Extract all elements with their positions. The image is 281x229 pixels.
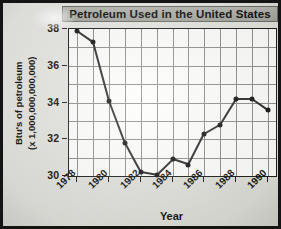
- y-axis-tick: [62, 138, 67, 139]
- y-axis-title: Btu's of petroleum (x 1,000,000,000,000): [5, 23, 39, 183]
- data-line-segment: [108, 100, 126, 143]
- x-axis-tick: [76, 177, 77, 182]
- x-axis-tick: [140, 177, 141, 182]
- data-line-segment: [188, 133, 206, 165]
- y-axis-tick-label: 38: [47, 22, 59, 34]
- y-axis-tick: [62, 28, 67, 29]
- y-axis-tick-label: 36: [47, 59, 59, 71]
- x-axis-tick: [172, 177, 173, 182]
- x-axis-tick: [203, 177, 204, 182]
- data-point-marker: [234, 96, 239, 101]
- y-axis-tick: [62, 65, 67, 66]
- y-axis-tick-label: 32: [47, 132, 59, 144]
- data-point-marker: [250, 96, 255, 101]
- y-axis-title-line-2: (x 1,000,000,000,000): [24, 23, 38, 183]
- x-axis-tick: [108, 177, 109, 182]
- y-axis-tick: [62, 102, 67, 103]
- data-line-segment: [92, 42, 110, 101]
- data-point-marker: [202, 131, 207, 136]
- x-axis-tick: [267, 177, 268, 182]
- data-series-petroleum: [69, 29, 276, 176]
- y-axis-title-line-1: Btu's of petroleum: [11, 23, 25, 183]
- data-point-marker: [106, 98, 111, 103]
- chart-figure: Petroleum Used in the United States Btu'…: [0, 0, 281, 229]
- data-point-marker: [90, 39, 95, 44]
- data-point-marker: [74, 28, 79, 33]
- data-point-marker: [170, 157, 175, 162]
- x-axis-title: Year: [68, 210, 275, 222]
- y-axis-tick-label: 34: [47, 96, 59, 108]
- chart-title: Petroleum Used in the United States: [69, 8, 271, 20]
- y-axis: 3032343638: [39, 28, 67, 175]
- x-axis-tick: [235, 177, 236, 182]
- data-point-marker: [218, 122, 223, 127]
- chart-title-band: Petroleum Used in the United States: [62, 6, 278, 22]
- data-point-marker: [122, 140, 127, 145]
- plot-area: [68, 28, 277, 177]
- data-point-marker: [266, 107, 271, 112]
- data-line-segment: [219, 98, 237, 125]
- data-point-marker: [186, 162, 191, 167]
